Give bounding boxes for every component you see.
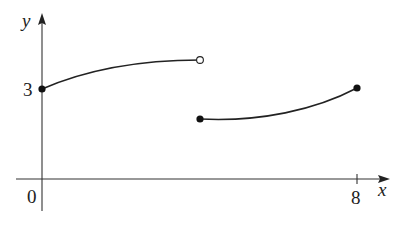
open-point-4-4 (197, 57, 204, 64)
y-tick-label-3: 3 (23, 79, 33, 100)
closed-point-8-3 (353, 84, 360, 91)
curve-piece-2 (200, 88, 357, 119)
y-axis-label: y (20, 10, 31, 31)
piecewise-function-graph: y 3 0 8 x (0, 0, 406, 234)
closed-point-0-3 (38, 85, 45, 92)
closed-point-4-2 (196, 115, 203, 122)
curve-piece-1 (42, 60, 200, 89)
origin-label: 0 (27, 186, 37, 207)
x-axis-label: x (377, 179, 387, 200)
x-tick-label-8: 8 (351, 187, 361, 208)
